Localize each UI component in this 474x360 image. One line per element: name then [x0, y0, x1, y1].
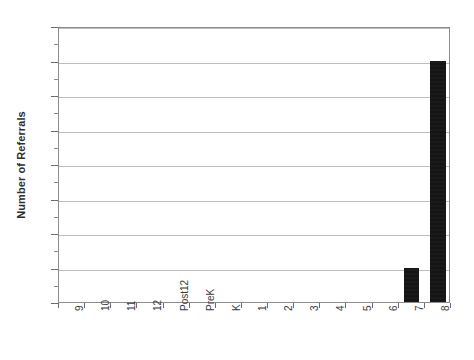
bar — [404, 268, 419, 303]
x-axis-tick-label: Post12 — [180, 280, 190, 311]
y-axis-tick-mark — [51, 269, 58, 270]
gridline — [59, 63, 449, 64]
y-axis-tick-mark — [51, 200, 58, 201]
x-axis-tick-label: 5 — [363, 305, 373, 311]
y-axis-tick-mark — [51, 165, 58, 166]
gridline — [59, 166, 449, 167]
y-axis-tick-mark — [51, 96, 58, 97]
plot-area — [58, 27, 450, 303]
x-axis-tick-label: 12 — [153, 300, 163, 311]
y-axis-tick-mark — [51, 303, 58, 304]
bar-chart-figure: Number of Referrals 0.01.02.03.04.05.06.… — [0, 0, 474, 360]
gridline — [59, 97, 449, 98]
x-axis-tick-label: 3 — [310, 305, 320, 311]
y-axis-tick-mark — [51, 62, 58, 63]
x-axis-tick-label: K — [232, 304, 242, 311]
gridline — [59, 270, 449, 271]
x-axis-tick-label: PreK — [206, 289, 216, 311]
x-axis-tick-label: 9 — [75, 305, 85, 311]
y-axis-title: Number of Referrals — [14, 27, 28, 303]
x-axis-tick-label: 7 — [415, 305, 425, 311]
gridline — [59, 201, 449, 202]
gridline — [59, 132, 449, 133]
x-axis-tick-mark — [58, 303, 59, 308]
y-axis-tick-mark — [51, 234, 58, 235]
x-axis-tick-label: 1 — [258, 305, 268, 311]
y-axis-tick-mark — [51, 27, 58, 28]
gridline — [59, 28, 449, 29]
gridline — [59, 235, 449, 236]
x-axis-tick-label: 6 — [389, 305, 399, 311]
bar — [430, 61, 445, 303]
x-axis-tick-label: 2 — [284, 305, 294, 311]
y-axis-tick-mark — [51, 131, 58, 132]
x-axis-tick-label: 10 — [101, 300, 111, 311]
x-axis-tick-label: 8 — [441, 305, 451, 311]
x-axis-tick-label: 11 — [127, 301, 137, 311]
x-axis-tick-label: 4 — [336, 305, 346, 311]
